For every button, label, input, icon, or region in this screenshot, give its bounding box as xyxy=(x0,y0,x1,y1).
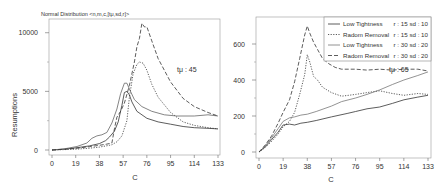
x-tick-label: 19 xyxy=(72,160,80,167)
x-tick-label: 95 xyxy=(376,163,384,170)
legend-params: r : 30 sd : 20 xyxy=(394,52,429,59)
x-tick-label: 133 xyxy=(422,163,434,170)
left-plot-frame xyxy=(49,19,220,155)
legend-label: Radom Removal xyxy=(343,31,389,38)
legend-label: Radom Removal xyxy=(343,52,389,59)
chart-figure: Normal Distribution <n,m,c,[tμ,sd,r]> 05… xyxy=(0,0,445,187)
series-line-4 xyxy=(52,23,218,150)
x-tick-label: 38 xyxy=(303,163,311,170)
left-chart-title: Normal Distribution <n,m,c,[tμ,sd,r]> xyxy=(41,11,129,17)
x-tick-label: 76 xyxy=(352,163,360,170)
series-line-1 xyxy=(259,95,428,152)
y-tick-label: 10000 xyxy=(19,29,39,36)
y-tick-label: 5000 xyxy=(22,88,38,95)
x-tick-label: 19 xyxy=(279,163,287,170)
legend-params: r : 15 sd : 10 xyxy=(394,31,429,38)
legend-params: r : 15 sd : 10 xyxy=(394,20,429,27)
left-annotation: tμ : 45 xyxy=(177,66,197,74)
x-tick-label: 114 xyxy=(398,163,409,170)
legend-label: Low Tightness xyxy=(343,41,383,48)
series-line-3 xyxy=(52,83,218,150)
x-tick-label: 38 xyxy=(96,160,104,167)
x-tick-label: 57 xyxy=(119,160,127,167)
x-tick-label: 76 xyxy=(143,160,151,167)
right-chart-panel: 0200400600 01938577695114133 tμ : 65 C L… xyxy=(233,17,434,184)
series-line-3 xyxy=(259,72,428,152)
x-tick-label: 95 xyxy=(167,160,175,167)
y-tick-label: 400 xyxy=(233,77,245,84)
x-tick-label: 57 xyxy=(328,163,336,170)
right-legend: Low Tightnessr : 15 sd : 10Radom Removal… xyxy=(324,17,431,61)
x-tick-label: 114 xyxy=(189,160,200,167)
left-y-axis-label: Resumptions xyxy=(10,93,19,137)
y-tick-label: 0 xyxy=(34,147,38,154)
x-tick-label: 0 xyxy=(257,163,261,170)
y-tick-label: 600 xyxy=(233,41,245,48)
left-chart-panel: Normal Distribution <n,m,c,[tμ,sd,r]> 05… xyxy=(10,11,224,182)
left-x-axis-label: C xyxy=(132,173,138,182)
x-tick-label: 133 xyxy=(212,160,224,167)
x-tick-label: 0 xyxy=(50,160,54,167)
legend-label: Low Tightness xyxy=(343,20,383,27)
legend-params: r : 30 sd : 20 xyxy=(394,41,429,48)
y-tick-label: 200 xyxy=(233,113,245,120)
right-x-axis-label: C xyxy=(328,175,334,184)
right-annotation: tμ : 65 xyxy=(389,66,409,74)
y-tick-label: 0 xyxy=(241,149,245,156)
